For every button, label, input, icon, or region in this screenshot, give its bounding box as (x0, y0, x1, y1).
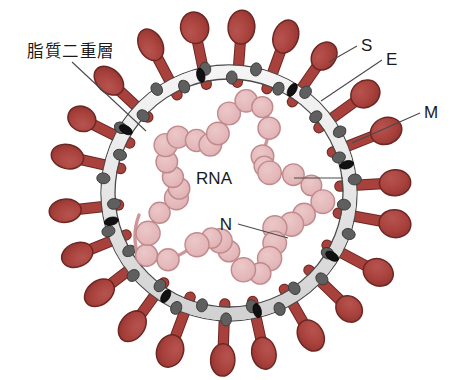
n-protein (136, 244, 158, 266)
label-envelope: E (386, 50, 397, 69)
label-spike: S (361, 36, 372, 55)
label-lipid-bilayer: 脂質二重層 (27, 42, 115, 61)
n-protein (136, 221, 160, 245)
m-protein (221, 313, 232, 326)
virus-diagram: 脂質二重層 S E M RNA N (0, 0, 470, 380)
n-protein (258, 161, 281, 184)
n-protein (157, 249, 179, 271)
label-membrane: M (424, 103, 438, 122)
spike-head (210, 343, 235, 376)
label-rna: RNA (196, 169, 233, 188)
n-protein (185, 233, 209, 257)
n-protein (252, 97, 273, 118)
diagram-canvas: 脂質二重層 S E M RNA N (0, 0, 470, 380)
n-protein (258, 117, 280, 139)
n-protein (231, 258, 255, 282)
m-protein (226, 71, 237, 84)
n-protein (207, 122, 230, 145)
label-nucleocapsid: N (220, 215, 232, 234)
